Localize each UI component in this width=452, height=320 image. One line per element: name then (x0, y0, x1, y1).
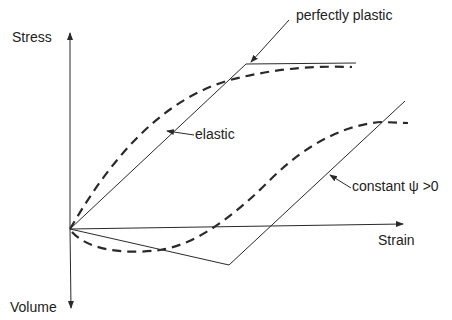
perfectly-plastic-label: perfectly plastic (296, 7, 392, 23)
perfectly-plastic-leader (251, 20, 289, 62)
constant-psi-leader (330, 175, 351, 188)
volume-axis-label: Volume (10, 299, 57, 315)
constant-psi-label: constant ψ >0 (352, 178, 439, 194)
stress-strain-volume-diagram: Stress Volume Strain perfectly plastic e… (0, 0, 452, 320)
strain-axis (70, 224, 403, 229)
stress-axis-label: Stress (12, 29, 52, 45)
volume-axis (70, 229, 71, 308)
strain-axis-label: Strain (378, 232, 415, 248)
elastic-label: elastic (195, 126, 235, 142)
stress-elastic-plastic-line (70, 63, 356, 229)
